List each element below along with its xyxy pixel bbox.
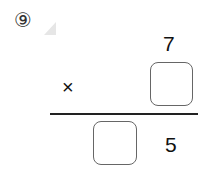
triangle-marker-icon <box>44 22 56 35</box>
multiply-operator: × <box>62 77 74 97</box>
product-ones-digit: 5 <box>165 134 177 155</box>
sum-line <box>50 113 198 115</box>
problem-number: ⑨ <box>14 10 32 30</box>
multiplier-answer-box[interactable] <box>150 62 193 106</box>
multiplicand-digit: 7 <box>163 33 175 54</box>
product-tens-answer-box[interactable] <box>93 121 137 165</box>
